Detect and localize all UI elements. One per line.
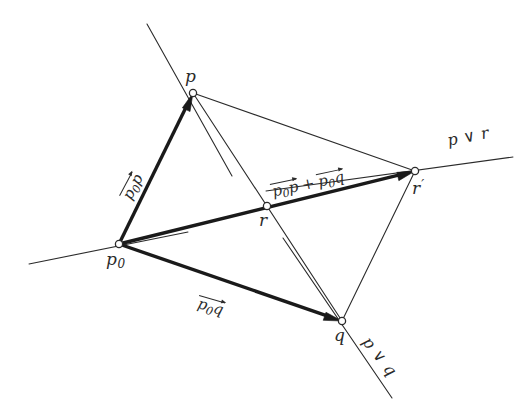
plus-operator: + — [300, 174, 316, 194]
point-label-q-text: q — [334, 325, 345, 345]
point-label-p0: p0 — [106, 249, 126, 270]
thin-lines-group — [29, 24, 513, 398]
point-label-p: p — [185, 66, 197, 87]
point-node-p0 — [115, 240, 122, 247]
point-label-q: q — [334, 325, 346, 346]
segment-p-to-r-prime — [193, 93, 415, 171]
geometry-diagram-canvas: p p0 r r′ q p0p p0q p0p+p0q p ∨ r p ∨ q — [0, 0, 525, 414]
point-nodes-group — [115, 89, 418, 324]
point-label-p-text: p — [185, 66, 196, 86]
point-label-r-prime: r′ — [412, 178, 424, 199]
point-node-r-prime — [411, 167, 418, 174]
line-p-join-q — [283, 238, 392, 398]
point-label-p0-text: p — [106, 249, 117, 269]
point-label-r-prime-mark: ′ — [421, 177, 424, 192]
vector-p0-to-q — [119, 244, 342, 321]
segment-q-to-r-prime — [342, 171, 415, 321]
point-node-p — [189, 89, 196, 96]
diagram-svg — [0, 0, 525, 414]
point-node-q — [338, 317, 345, 324]
point-label-r-text: r — [259, 210, 267, 230]
point-node-r — [263, 202, 270, 209]
point-label-r: r — [259, 210, 268, 231]
point-label-r-prime-text: r — [412, 178, 420, 198]
point-label-p0-subscript: 0 — [117, 257, 125, 271]
